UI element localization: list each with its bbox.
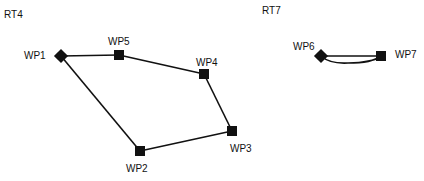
- edge-wp4-wp3: [204, 74, 232, 131]
- edge-wp5-wp4: [119, 55, 204, 74]
- waypoint-wp6-marker[interactable]: [314, 49, 328, 63]
- route-title-rt4: RT4: [4, 9, 23, 20]
- waypoint-wp5-label: WP5: [108, 36, 130, 47]
- edge-wp1-wp5: [61, 55, 119, 56]
- waypoint-wp4-marker[interactable]: [199, 69, 209, 79]
- waypoint-wp5-marker[interactable]: [114, 50, 124, 60]
- edge-wp3-wp2: [140, 131, 232, 151]
- waypoint-wp4-label: WP4: [196, 57, 218, 68]
- waypoint-wp7-marker[interactable]: [376, 51, 386, 61]
- waypoint-wp2-label: WP2: [126, 163, 148, 174]
- rt7-edges: [321, 56, 381, 63]
- waypoint-wp2-marker[interactable]: [135, 146, 145, 156]
- edge-wp2-wp1: [61, 56, 140, 151]
- waypoint-wp1-label: WP1: [24, 50, 46, 61]
- edge-wp7-wp6-curved: [321, 56, 381, 63]
- waypoint-wp6-label: WP6: [293, 41, 315, 52]
- waypoint-wp7-label: WP7: [395, 49, 417, 60]
- waypoint-wp3-marker[interactable]: [227, 126, 237, 136]
- waypoint-wp3-label: WP3: [230, 143, 252, 154]
- route-diagram: RT4 RT7 WP1 WP5 WP4 WP3 WP2 WP6 WP7: [0, 0, 424, 181]
- route-title-rt7: RT7: [262, 5, 281, 16]
